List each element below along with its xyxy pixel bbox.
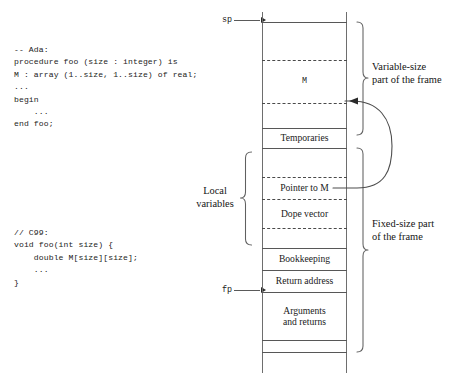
stack-cell-temporaries: Temporaries: [262, 128, 347, 148]
fixed-size-brace: [357, 148, 368, 352]
frame-pointer-fp: fp: [222, 285, 266, 295]
pointer-to-m-arrowhead: [349, 97, 358, 104]
sp-arrow-shaft: [234, 20, 260, 21]
stack-cell-bookkeeping: Bookkeeping: [262, 248, 347, 270]
stack-pointer-sp: sp: [222, 15, 266, 25]
variable-size-line1: Variable-size: [372, 61, 467, 74]
sp-label: sp: [222, 15, 232, 25]
divider-frame-bottom: [262, 352, 347, 353]
variable-size-line2: part of the frame: [372, 74, 467, 87]
divider-arguments-bottom: [262, 340, 347, 341]
ada-code-block: -- Ada: procedure foo (size : integer) i…: [14, 44, 197, 131]
stack-cell-dope-vector: Dope vector: [262, 199, 347, 228]
local-variables-line1: Local: [186, 185, 244, 198]
stack-cell-arguments-and-returns: Arguments and returns: [262, 292, 347, 340]
local-variables-line2: variables: [186, 198, 244, 211]
c99-code-block: // C99: void foo(int size) { double M[si…: [14, 227, 138, 289]
variable-size-annotation: Variable-size part of the frame: [372, 61, 467, 86]
dashed-divider-m-bottom: [262, 103, 347, 104]
variable-size-brace: [357, 22, 368, 135]
stack-cell-return-address: Return address: [262, 270, 347, 292]
local-variables-annotation: Local variables: [186, 185, 244, 210]
stack-cell-m-array: M: [262, 60, 347, 103]
stack-cell-pointer-to-m: Pointer to M: [262, 177, 347, 199]
dashed-divider-dope-bottom: [262, 228, 347, 229]
divider-temporaries-bottom: [262, 148, 347, 149]
fixed-size-line1: Fixed-size part: [372, 218, 467, 231]
fixed-size-line2: of the frame: [372, 231, 467, 244]
stack-frame-column: M Temporaries Pointer to M Dope vector B…: [262, 0, 347, 373]
divider-sp: [262, 22, 347, 23]
fixed-size-annotation: Fixed-size part of the frame: [372, 218, 467, 243]
fp-label: fp: [222, 285, 232, 295]
fp-arrow-shaft: [234, 290, 260, 291]
figure-canvas: -- Ada: procedure foo (size : integer) i…: [0, 0, 467, 373]
